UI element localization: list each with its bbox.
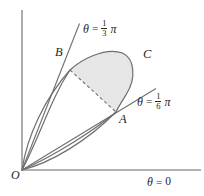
theta-symbol: θ — [137, 96, 143, 108]
pi-symbol: π — [163, 96, 170, 108]
fraction-numerator: 1 — [155, 92, 161, 101]
point-label-c: C — [143, 48, 151, 61]
theta-symbol: θ — [147, 176, 153, 188]
equals-symbol: = — [91, 23, 99, 34]
equals-symbol: = — [145, 96, 153, 107]
point-label-a: A — [119, 113, 127, 126]
origin-label-o: O — [11, 169, 20, 181]
pi-symbol: π — [109, 23, 116, 35]
fraction-denominator: 6 — [155, 101, 161, 111]
polar-curve-figure: B C A O θ = 1 3 π θ = 1 6 π θ = 0 — [0, 0, 204, 196]
ray-label-theta-one-sixth-pi: θ = 1 6 π — [137, 92, 170, 111]
fraction-numerator: 1 — [101, 19, 107, 28]
fraction-one-sixth: 1 6 — [155, 92, 161, 111]
theta-zero-value: 0 — [165, 176, 171, 188]
fraction-denominator: 3 — [101, 28, 107, 38]
equals-symbol: = — [155, 177, 163, 188]
fraction-one-third: 1 3 — [101, 19, 107, 38]
shaded-sector-region — [70, 51, 133, 112]
theta-symbol: θ — [83, 23, 89, 35]
ray-label-theta-one-third-pi: θ = 1 3 π — [83, 19, 116, 38]
ray-theta-one-sixth-pi — [22, 89, 156, 171]
point-label-b: B — [55, 46, 63, 59]
axis-label-theta-zero: θ = 0 — [147, 176, 171, 188]
